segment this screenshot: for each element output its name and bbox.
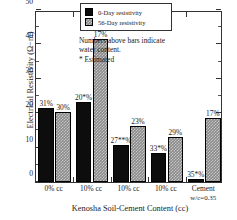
x-category-line-1: 10% cc	[147, 185, 184, 194]
legend-swatch-56day	[85, 18, 93, 26]
y-tick-label: 10	[25, 134, 33, 143]
bar-value-label: 31%	[39, 99, 53, 108]
annotation-line-2: water content.	[79, 45, 209, 54]
bar-value-label: 20*%	[75, 93, 92, 102]
bar-value-label: 33*%	[150, 144, 167, 153]
bar-56day: 29%	[168, 137, 184, 182]
y-tick-major	[36, 9, 41, 10]
y-tick-major	[216, 9, 221, 10]
bar-value-label: 35*%	[187, 170, 204, 179]
y-tick-label: 30	[25, 65, 33, 74]
bar-56day: 30%	[55, 112, 71, 182]
bar-value-label: 27**%	[111, 136, 132, 145]
bar-group: 31%30%	[36, 12, 73, 182]
bar-56day: 17%	[205, 118, 221, 182]
annotation-line-3: * Estimated	[79, 55, 209, 64]
bar-value-label: 30%	[56, 103, 70, 112]
bar-value-label: 29%	[169, 128, 183, 137]
chart-figure: Electrical Resistivity (Ω−m) Kenosha Soi…	[0, 0, 237, 220]
y-tick-label: 20	[25, 100, 33, 109]
legend: 0-Day resistivity 56-Day resistivity	[80, 3, 172, 31]
bar-0day: 20*%	[76, 102, 92, 182]
annotation-line-1: Numbers above bars indicate	[79, 36, 209, 45]
bar-0day: 31%	[38, 108, 54, 182]
bar-value-label: 23%	[131, 117, 145, 126]
bar-0day: 35*%	[188, 179, 204, 182]
y-tick-label: 40	[25, 31, 33, 40]
x-category-line-1: 10% cc	[110, 185, 147, 194]
x-category-line-1: Cement	[185, 185, 222, 194]
annotation-block: Numbers above bars indicate water conten…	[79, 36, 209, 64]
y-tick-label: 0	[29, 169, 33, 178]
x-category-label: 10% cc	[72, 185, 109, 194]
bar-value-label: 17%	[206, 109, 220, 118]
legend-item-56day: 56-Day resistivity	[85, 17, 167, 27]
legend-label-0day: 0-Day resistivity	[98, 9, 142, 16]
bar-0day: 33*%	[151, 153, 167, 182]
x-category-line-1: 10% cc	[72, 185, 109, 194]
legend-item-0day: 0-Day resistivity	[85, 7, 167, 17]
legend-swatch-0day	[85, 8, 93, 16]
y-tick-label: 50	[25, 0, 33, 6]
legend-label-56day: 56-Day resistivity	[98, 19, 145, 26]
bar-0day: 27**%	[113, 145, 129, 182]
bar-56day: 23%	[130, 126, 146, 182]
x-axis-title: Kenosha Soil-Cement Content (cc)	[30, 204, 230, 213]
x-category-label: 10% cc	[110, 185, 147, 194]
x-category-label: 0% cc	[35, 185, 72, 194]
x-category-label: Cementw/c=0.35	[185, 185, 222, 202]
x-category-line-2: w/c=0.35	[185, 194, 222, 203]
x-category-line-1: 0% cc	[35, 185, 72, 194]
x-category-label: 10% cc	[147, 185, 184, 194]
